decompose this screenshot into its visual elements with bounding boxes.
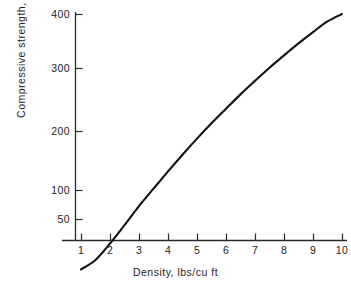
x-tick-label: 7 (252, 245, 258, 256)
x-tick-label: 1 (78, 245, 84, 256)
x-tick-label: 3 (136, 245, 142, 256)
y-tick-label: 50 (32, 214, 70, 225)
x-axis-title: Density, lbs/cu ft (0, 266, 351, 278)
x-tick-label: 8 (281, 245, 287, 256)
x-tick-label: 9 (310, 245, 316, 256)
x-tick-label: 2 (107, 245, 113, 256)
y-axis-title: Compressive strength, psi (15, 0, 27, 146)
y-tick-label: 200 (32, 126, 70, 137)
x-tick-label: 4 (165, 245, 171, 256)
y-tick-label: 300 (32, 63, 70, 74)
x-tick-label: 6 (223, 245, 229, 256)
y-tick-label: 400 (32, 9, 70, 20)
plot-area (0, 0, 351, 290)
y-tick-label: 100 (32, 185, 70, 196)
data-curve-compressive-strength (81, 14, 342, 269)
y-tick-marks (76, 15, 83, 220)
chart-figure: 40030020010050 12345678910 Compressive s… (0, 0, 351, 290)
x-tick-label: 10 (336, 245, 348, 256)
x-tick-label: 5 (194, 245, 200, 256)
x-tick-marks (82, 234, 343, 241)
